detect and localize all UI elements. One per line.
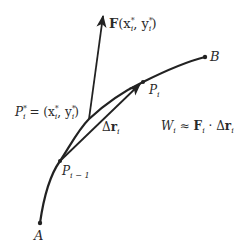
- point-b-label: B: [209, 49, 220, 64]
- pi-label: Pi: [148, 83, 160, 99]
- pi-minus-1-label: Pi − 1: [61, 164, 90, 180]
- point-pi-dot: [141, 80, 145, 84]
- point-a-dot: [38, 221, 42, 225]
- work-diagram: F(x*i, y*i) P*i = (x*i, y*i) Δri Pi B Pi…: [0, 0, 240, 251]
- pi-star-equation: P*i = (x*i, y*i): [14, 104, 79, 121]
- point-b-dot: [203, 55, 207, 59]
- curve-path: [40, 57, 205, 223]
- force-label: F(x*i, y*i): [109, 16, 156, 33]
- point-a-label: A: [33, 228, 43, 243]
- delta-r-arrow: [60, 84, 140, 161]
- force-arrow: [89, 16, 103, 119]
- delta-r-label: Δri: [102, 120, 120, 136]
- work-formula: Wi ≈ Fi · Δri: [161, 119, 234, 135]
